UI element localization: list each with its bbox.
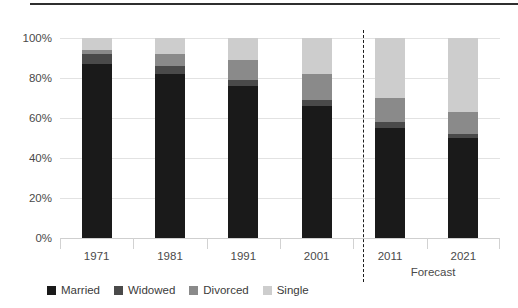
legend-label: Divorced bbox=[203, 284, 248, 296]
legend-item-widowed[interactable]: Widowed bbox=[114, 284, 175, 296]
gridline-60 bbox=[60, 118, 500, 119]
x-axis-tick bbox=[353, 238, 354, 249]
gridline-100 bbox=[60, 38, 500, 39]
chart-legend: MarriedWidowedDivorcedSingle bbox=[47, 284, 309, 296]
x-axis-label-2011: 2011 bbox=[350, 250, 430, 262]
bar-1981[interactable] bbox=[155, 38, 185, 238]
x-axis-label-1981: 1981 bbox=[130, 250, 210, 262]
legend-swatch-divorced bbox=[189, 286, 198, 295]
x-axis-label-2001: 2001 bbox=[277, 250, 357, 262]
forecast-label: Forecast bbox=[378, 266, 488, 278]
y-axis-labels: 0%20%40%60%80%100% bbox=[0, 38, 52, 238]
legend-label: Married bbox=[61, 284, 100, 296]
gridline-20 bbox=[60, 198, 500, 199]
y-axis-tick-label: 80% bbox=[6, 72, 52, 84]
bar-segment-divorced-1981[interactable] bbox=[155, 54, 185, 66]
bar-2011[interactable] bbox=[375, 38, 405, 238]
bar-segment-married-2001[interactable] bbox=[302, 106, 332, 238]
legend-item-married[interactable]: Married bbox=[47, 284, 100, 296]
y-axis-tick-label: 60% bbox=[6, 112, 52, 124]
legend-swatch-married bbox=[47, 286, 56, 295]
y-axis-tick-label: 20% bbox=[6, 192, 52, 204]
x-axis-label-1991: 1991 bbox=[203, 250, 283, 262]
bar-2001[interactable] bbox=[302, 38, 332, 238]
bar-segment-divorced-1991[interactable] bbox=[228, 60, 258, 80]
legend-label: Single bbox=[277, 284, 309, 296]
x-axis-ticks bbox=[60, 238, 500, 249]
y-axis-tick-label: 0% bbox=[6, 232, 52, 244]
x-axis-tick bbox=[207, 238, 208, 249]
x-axis-label-1971: 1971 bbox=[57, 250, 137, 262]
bar-segment-married-2021[interactable] bbox=[448, 138, 478, 238]
x-axis-tick bbox=[499, 238, 500, 249]
bar-segment-single-2001[interactable] bbox=[302, 38, 332, 74]
forecast-divider-line bbox=[363, 30, 364, 282]
bar-segment-single-1971[interactable] bbox=[82, 38, 112, 50]
bar-segment-divorced-2021[interactable] bbox=[448, 112, 478, 134]
stacked-bar-chart: 0%20%40%60%80%100% 197119811991200120112… bbox=[0, 0, 518, 308]
x-axis-tick bbox=[133, 238, 134, 249]
bar-segment-single-1981[interactable] bbox=[155, 38, 185, 54]
bar-segment-divorced-2011[interactable] bbox=[375, 98, 405, 122]
gridline-80 bbox=[60, 78, 500, 79]
bar-1971[interactable] bbox=[82, 38, 112, 238]
bar-segment-married-1991[interactable] bbox=[228, 86, 258, 238]
x-axis-tick bbox=[280, 238, 281, 249]
bar-segment-widowed-1971[interactable] bbox=[82, 54, 112, 64]
bar-2021[interactable] bbox=[448, 38, 478, 238]
legend-item-single[interactable]: Single bbox=[263, 284, 309, 296]
gridline-40 bbox=[60, 158, 500, 159]
x-axis-tick bbox=[427, 238, 428, 249]
plot-area bbox=[60, 38, 500, 238]
x-axis-label-2021: 2021 bbox=[423, 250, 503, 262]
legend-label: Widowed bbox=[128, 284, 175, 296]
bar-segment-married-2011[interactable] bbox=[375, 128, 405, 238]
legend-item-divorced[interactable]: Divorced bbox=[189, 284, 248, 296]
bar-segment-divorced-2001[interactable] bbox=[302, 74, 332, 100]
bar-1991[interactable] bbox=[228, 38, 258, 238]
y-axis-tick-label: 40% bbox=[6, 152, 52, 164]
bar-segment-married-1971[interactable] bbox=[82, 64, 112, 238]
legend-swatch-single bbox=[263, 286, 272, 295]
bar-segment-widowed-1981[interactable] bbox=[155, 66, 185, 74]
y-axis-tick-label: 100% bbox=[6, 32, 52, 44]
x-axis-tick bbox=[60, 238, 61, 249]
bar-segment-single-2011[interactable] bbox=[375, 38, 405, 98]
legend-swatch-widowed bbox=[114, 286, 123, 295]
bar-segment-married-1981[interactable] bbox=[155, 74, 185, 238]
bar-segment-single-2021[interactable] bbox=[448, 38, 478, 112]
bar-segment-single-1991[interactable] bbox=[228, 38, 258, 60]
